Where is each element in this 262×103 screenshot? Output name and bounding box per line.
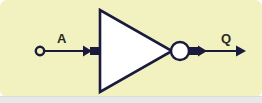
input-label: A — [57, 32, 66, 45]
output-terminal-arrowhead-icon — [236, 46, 246, 57]
inverter-bubble-icon[interactable] — [171, 42, 189, 60]
input-terminal-circle[interactable] — [36, 47, 44, 55]
gate-body-triangle[interactable] — [100, 10, 172, 92]
not-gate-diagram — [0, 0, 262, 103]
bottom-strip — [0, 96, 262, 103]
output-label: Q — [221, 32, 231, 45]
diagram-canvas: A Q — [0, 0, 262, 103]
